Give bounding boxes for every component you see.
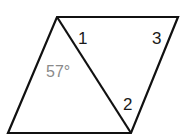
- parallelogram-diagram: 1 3 2 57°: [0, 0, 180, 137]
- angle-2-label: 2: [123, 95, 132, 114]
- angle-1-label: 1: [78, 29, 87, 48]
- given-angle-label: 57°: [46, 63, 70, 80]
- angle-3-label: 3: [152, 29, 161, 48]
